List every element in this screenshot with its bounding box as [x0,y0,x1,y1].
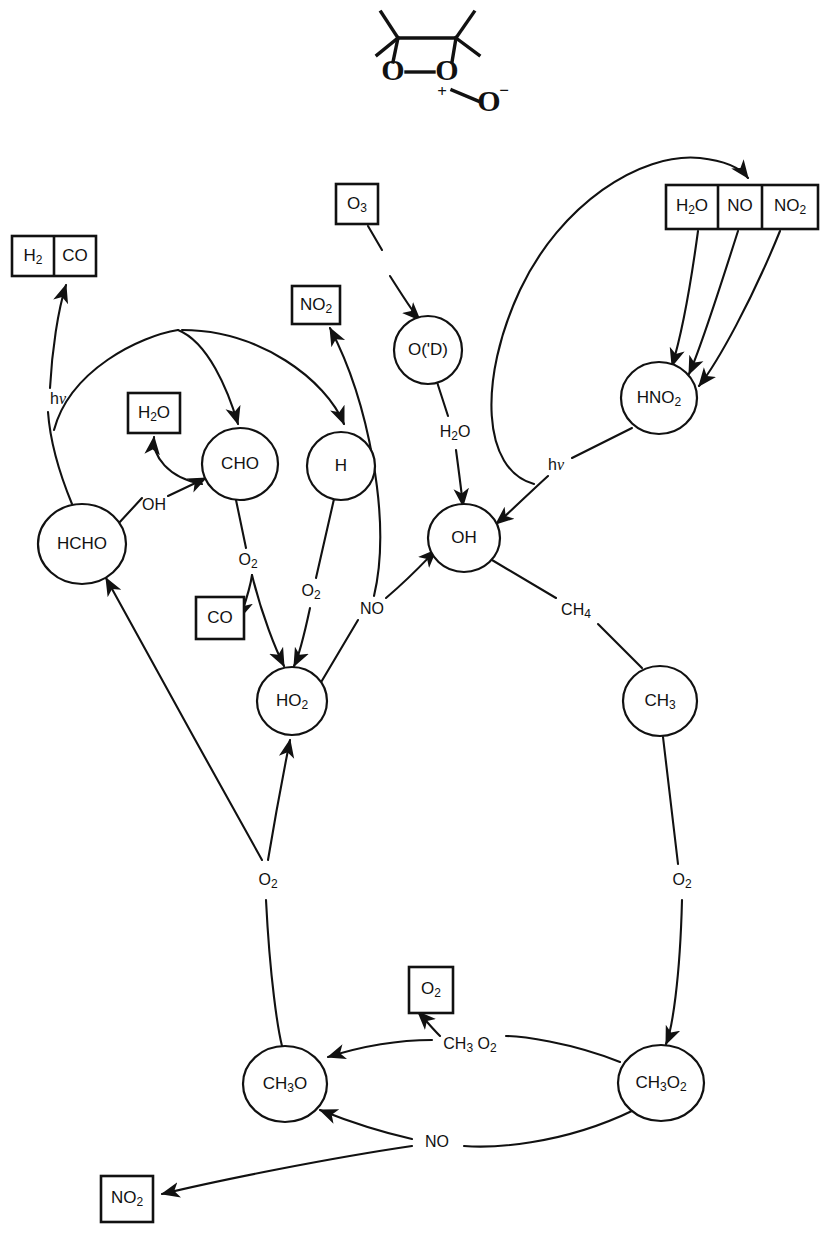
edge-label-ch4: CH4 [561,601,591,621]
node-o1d: O('D) [394,316,462,384]
node-ch3o: CH3O [243,1046,327,1122]
node-label-cho: CHO [221,454,259,473]
edge-o2left-to-ho2 [268,740,290,860]
edge-ch3-to-o2label-right [663,737,678,864]
edge-hvlabel-to-o1d [390,276,420,320]
edge-label-hv-hno2: hν [548,456,565,474]
box-cell-co: CO [62,246,88,265]
edge-label-oh-hcho: OH [142,496,166,513]
edge-o2left-to-ch3o [266,900,282,1046]
box-h2o-left: H2O [128,393,180,433]
edge-nolabel-to-no2-box [162,1146,412,1194]
edge-hvlabel-to-oh [496,476,548,524]
edge-o2label-h-to-ho2 [294,608,310,666]
edge-hcho-hv-h2co-upper [50,285,66,388]
box-h2o-no-no2: H2O NO NO2 [666,185,818,229]
edge-label-o2-left: O2 [258,871,277,891]
edge-hv-to-cho [178,330,238,424]
edge-o2label-to-ho2 [252,575,284,666]
edge-no2-to-hno2 [699,231,780,386]
edge-label-no-bottom: NO [425,1133,449,1150]
edge-hv-to-h [182,330,344,424]
node-label-o1d: O('D) [408,340,448,359]
structure-charge-minus: − [499,81,509,100]
edge-cho-to-o2label [236,500,246,548]
reaction-network-svg: O O O + − H2/CO box --> CHO (label OH in… [0,0,826,1235]
edge-o2label-right-to-ch3o2 [666,900,682,1044]
box-h2-co: H2 CO [12,236,96,276]
box-o2-mid: O2 [409,967,453,1013]
node-h: H [307,432,375,500]
node-oh: OH [428,504,500,572]
node-hno2: HNO2 [621,362,697,434]
edge-ho2-to-nolabel [320,620,358,684]
edge-hcho-hv-h2co-lower [48,412,72,504]
edge-label-no-mid: NO [360,600,384,617]
edge-midlabel-to-ch3o [328,1040,432,1057]
edge-ch4label-to-ch3 [598,624,642,668]
edge-o1d-to-h2olabel [437,382,448,416]
edge-h2olabel-to-oh [456,450,463,506]
structure-atom-o-center: O [435,53,458,86]
structure-charge-plus: + [437,82,447,101]
box-no2-bottom: NO2 [101,1176,153,1222]
edge-label-h2o-o1d: H2O [440,423,471,443]
edge-oh-to-ch4label [492,560,556,598]
node-label-hcho: HCHO [57,534,107,553]
node-label-h: H [335,456,347,475]
node-ch3: CH3 [623,666,697,736]
edge-ch3o2-to-nolabel [464,1110,634,1147]
box-no2-mid: NO2 [292,286,340,324]
edge-labels-layer: hν OH O2 O2 NO H2O hν CH4 O2 O2 CH3 O2 N… [50,390,692,1151]
box-co: CO [196,597,244,639]
edge-label-o2-cho: O2 [238,551,257,571]
edge-midlabel-to-o2-box [418,1012,440,1036]
edge-ch3o2-to-midlabel [506,1036,620,1062]
node-hcho: HCHO [38,504,126,584]
box-cell-no-res: NO [727,196,753,215]
structure-atom-o-right: O [477,84,500,117]
box-cell-co-lower: CO [207,608,233,627]
edge-no-to-hno2 [689,231,738,374]
edge-hno2-to-hvlabel [572,428,632,458]
edge-o3-to-hvlabel [368,226,382,250]
edge-cho-to-h2o-box [154,437,202,484]
edge-h-to-o2label [316,499,334,578]
edge-label-ch3o2-mid: CH3 O2 [443,1035,497,1055]
edge-label-hv-left: hν [50,390,67,408]
structure-atom-o-left: O [381,53,404,86]
node-label-oh: OH [451,528,477,547]
edge-h2o-to-hno2 [672,231,698,366]
edge-nolabel-to-ch3o [320,1110,412,1139]
edge-label-o2-h: O2 [301,582,320,602]
diagram-canvas: O O O + − H2/CO box --> CHO (label OH in… [0,0,826,1235]
edge-hcho-to-oh-label [118,498,142,524]
edge-label-o2-right: O2 [672,871,691,891]
node-ho2: HO2 [257,667,327,735]
edge-nolabel-to-oh [386,550,436,598]
node-ch3o2: CH3O2 [618,1045,704,1121]
node-label-ch3o: CH3O [263,1074,307,1095]
box-o3: O3 [336,184,378,224]
node-cho: CHO [202,428,278,500]
